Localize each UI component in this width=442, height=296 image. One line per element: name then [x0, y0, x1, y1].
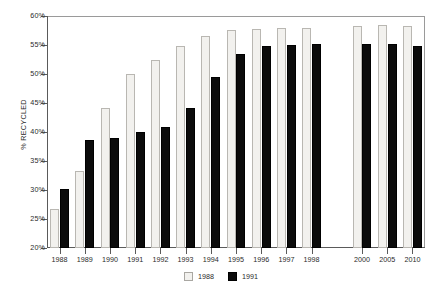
bar-series-1991	[60, 189, 69, 248]
bar-series-1991	[110, 138, 119, 248]
x-axis-tick	[135, 248, 136, 254]
x-axis-tick	[286, 248, 287, 254]
bar-series-1991	[211, 77, 220, 248]
x-axis-tick	[362, 248, 363, 254]
bar-series-1988	[75, 171, 84, 248]
bar-series-1988	[252, 29, 261, 248]
bar-series-1991	[161, 127, 170, 248]
bar-series-1988	[227, 30, 236, 248]
bar-series-1988	[353, 26, 362, 248]
x-axis-tick	[312, 248, 313, 254]
bar-series-1991	[413, 46, 422, 248]
x-axis-tick	[236, 248, 237, 254]
bar-series-1988	[50, 209, 59, 248]
chart-legend: 19881991	[0, 272, 442, 281]
legend-item: 1988	[184, 272, 214, 281]
y-axis-label: 25%	[30, 215, 45, 222]
bar-series-1988	[378, 25, 387, 248]
y-axis-label: 30%	[30, 186, 45, 193]
bar-series-1988	[302, 28, 311, 248]
x-axis-tick	[211, 248, 212, 254]
y-axis-label: 35%	[30, 157, 45, 164]
bar-series-1988	[403, 26, 412, 248]
bar-series-1988	[101, 108, 110, 248]
y-axis-label: 50%	[30, 70, 45, 77]
bar-series-1988	[176, 46, 185, 248]
y-axis-label: 60%	[30, 12, 45, 19]
bar-series-1991	[262, 46, 271, 248]
legend-swatch-1991	[228, 272, 237, 281]
bar-series-1991	[136, 132, 145, 248]
bar-series-1991	[287, 45, 296, 248]
bar-series-1988	[126, 74, 135, 248]
x-axis-tick	[110, 248, 111, 254]
x-axis-label: 1998	[296, 256, 328, 263]
bar-series-1988	[201, 36, 210, 248]
x-axis-tick	[387, 248, 388, 254]
x-axis-tick	[261, 248, 262, 254]
x-axis-tick	[412, 248, 413, 254]
bar-series-1991	[362, 44, 371, 248]
x-axis-tick	[60, 248, 61, 254]
y-axis-label: 40%	[30, 128, 45, 135]
bar-series-1988	[151, 60, 160, 249]
bar-series-1991	[85, 140, 94, 248]
bar-series-1991	[186, 108, 195, 248]
x-axis-tick	[186, 248, 187, 254]
legend-label: 1991	[242, 273, 258, 280]
bar-series-1991	[388, 44, 397, 248]
bar-series-1991	[236, 54, 245, 248]
y-axis-label: 45%	[30, 99, 45, 106]
y-axis-title: % RECYCLED	[19, 55, 28, 195]
y-axis-label: 55%	[30, 41, 45, 48]
recycling-bar-chart: % RECYCLED 60%55%50%45%40%35%30%25%20% 1…	[0, 0, 442, 296]
legend-swatch-1988	[184, 272, 193, 281]
bar-series-1991	[312, 44, 321, 248]
legend-item: 1991	[228, 272, 258, 281]
x-axis-tick	[85, 248, 86, 254]
bar-series-1988	[277, 28, 286, 248]
x-axis-tick	[160, 248, 161, 254]
y-axis-label: 20%	[30, 244, 45, 251]
legend-label: 1988	[198, 273, 214, 280]
x-axis-label: 2010	[396, 256, 428, 263]
